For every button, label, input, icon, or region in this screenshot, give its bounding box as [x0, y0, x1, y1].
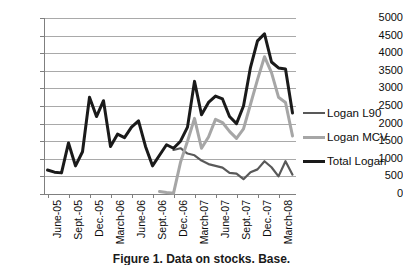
legend-item-logan-mcv[interactable]: Logan MCV: [303, 128, 388, 146]
series-line-logan-mcv: [160, 57, 293, 194]
legend-swatch-icon: [303, 112, 325, 114]
chart-figure: 5000450040003500300025002000150010005000…: [0, 0, 403, 265]
legend-swatch-icon: [303, 160, 325, 163]
legend-item-label: Logan L90: [327, 107, 381, 119]
legend-item-logan-l90[interactable]: Logan L90: [303, 104, 388, 122]
legend-item-label: Total Logan: [327, 155, 386, 167]
legend-swatch-icon: [303, 136, 325, 139]
series-line-total-logan: [48, 34, 293, 173]
figure-caption: Figure 1. Data on stocks. Base.: [0, 252, 403, 265]
series-line-logan-l90: [174, 148, 293, 179]
legend-item-label: Logan MCV: [327, 131, 388, 143]
legend-item-total-logan[interactable]: Total Logan: [303, 152, 388, 170]
chart-legend: Logan L90Logan MCVTotal Logan: [303, 104, 388, 176]
